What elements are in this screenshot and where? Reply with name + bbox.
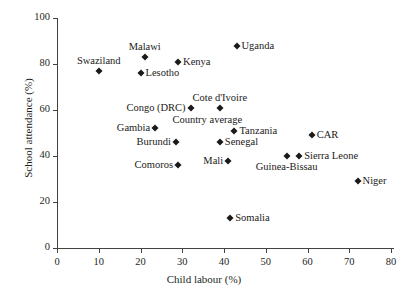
data-point-label: CAR bbox=[317, 130, 339, 141]
y-axis-label: School attendance (%) bbox=[22, 38, 34, 218]
y-tick-mark bbox=[53, 248, 57, 249]
data-point-label: Senegal bbox=[225, 137, 258, 148]
x-tick-label: 40 bbox=[209, 256, 239, 267]
y-tick-mark bbox=[53, 18, 57, 19]
x-tick-mark bbox=[99, 249, 100, 253]
data-point-label: Somalia bbox=[235, 213, 269, 224]
data-point-label: Comoros bbox=[135, 160, 174, 171]
x-tick-mark bbox=[182, 249, 183, 253]
data-point-label: Swaziland bbox=[77, 55, 121, 66]
x-tick-label: 30 bbox=[167, 256, 197, 267]
x-tick-mark bbox=[349, 249, 350, 253]
data-point-label: Gambia bbox=[117, 123, 150, 134]
chart-page: 01020304050607080 020406080100 Swaziland… bbox=[0, 0, 408, 302]
x-tick-label: 70 bbox=[334, 256, 364, 267]
y-tick-label: 100 bbox=[16, 11, 50, 22]
data-point-label: Niger bbox=[363, 176, 387, 187]
x-axis-line bbox=[57, 248, 394, 249]
x-tick-mark bbox=[224, 249, 225, 253]
x-tick-mark bbox=[57, 249, 58, 253]
data-point-label: Mali bbox=[203, 155, 223, 166]
y-axis-line bbox=[57, 18, 58, 249]
x-tick-mark bbox=[308, 249, 309, 253]
plot-area bbox=[57, 18, 394, 248]
data-point-label: Tanzania bbox=[239, 125, 277, 136]
x-tick-label: 80 bbox=[376, 256, 406, 267]
data-point-label: Kenya bbox=[183, 56, 210, 67]
x-tick-label: 50 bbox=[251, 256, 281, 267]
x-tick-label: 0 bbox=[42, 256, 72, 267]
data-point-label: Malawi bbox=[129, 42, 161, 53]
x-tick-mark bbox=[266, 249, 267, 253]
data-point-label: Burundi bbox=[137, 137, 171, 148]
data-point-label: Lesotho bbox=[146, 68, 180, 79]
data-point-label: Guinea-Bissau bbox=[256, 162, 318, 173]
x-axis-label: Child labour (%) bbox=[0, 273, 408, 285]
y-tick-mark bbox=[53, 110, 57, 111]
x-tick-label: 20 bbox=[126, 256, 156, 267]
x-tick-label: 60 bbox=[293, 256, 323, 267]
data-point-label: Uganda bbox=[242, 40, 275, 51]
x-tick-mark bbox=[141, 249, 142, 253]
data-point-label: Congo (DRC) bbox=[126, 102, 185, 113]
y-tick-mark bbox=[53, 156, 57, 157]
x-tick-label: 10 bbox=[84, 256, 114, 267]
y-tick-label: 0 bbox=[16, 241, 50, 252]
y-tick-mark bbox=[53, 64, 57, 65]
y-tick-mark bbox=[53, 202, 57, 203]
chart-annotation: Country average bbox=[172, 114, 242, 125]
data-point-label: Cote d'Ivoire bbox=[192, 92, 247, 103]
x-tick-mark bbox=[391, 249, 392, 253]
